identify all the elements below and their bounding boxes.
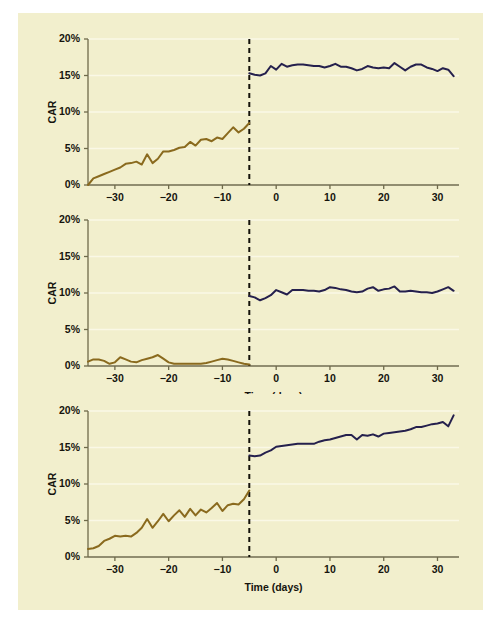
x-tick-label: −20: [160, 191, 178, 203]
axes: [84, 411, 459, 561]
chart-panel-1: 0%5%10%15%20%−30−20−100102030Time (days)…: [18, 25, 483, 207]
y-tick-label: 0%: [65, 550, 81, 562]
x-tick-label: 10: [324, 191, 336, 203]
y-tick-label: 5%: [65, 142, 81, 154]
y-axis-title: CAR: [46, 281, 58, 304]
x-tick-label: 10: [324, 563, 336, 575]
chart-svg: 0%5%10%15%20%−30−20−100102030Time (days)…: [18, 25, 483, 207]
y-tick-label: 15%: [59, 250, 81, 262]
x-tick-label: 30: [432, 563, 444, 575]
x-tick-label: −10: [214, 191, 232, 203]
x-tick-label: 20: [378, 372, 390, 384]
y-tick-label: 5%: [65, 514, 81, 526]
chart-svg: 0%5%10%15%20%−30−20−100102030Time (days)…: [18, 397, 483, 597]
y-tick-label: 5%: [65, 323, 81, 335]
data-line: [249, 63, 453, 76]
chart-panel-2: 0%5%10%15%20%−30−20−100102030Time (days)…: [18, 206, 483, 394]
y-tick-label: 10%: [59, 105, 81, 117]
x-tick-label: −10: [214, 563, 232, 575]
y-tick-label: 10%: [59, 477, 81, 489]
x-tick-label: 0: [273, 191, 279, 203]
y-tick-label: 0%: [65, 359, 81, 371]
data-line: [88, 355, 249, 364]
chart-svg: 0%5%10%15%20%−30−20−100102030Time (days)…: [18, 206, 483, 394]
x-tick-label: 20: [378, 191, 390, 203]
x-tick-label: 0: [273, 372, 279, 384]
x-tick-label: −10: [214, 372, 232, 384]
axes: [84, 39, 459, 189]
x-tick-label: −30: [106, 563, 124, 575]
gridlines: [88, 411, 459, 557]
chart-panel-3: 0%5%10%15%20%−30−20−100102030Time (days)…: [18, 397, 483, 597]
y-tick-label: 20%: [59, 404, 81, 416]
x-axis-title: Time (days): [244, 581, 302, 593]
x-tick-label: 30: [432, 191, 444, 203]
data-line: [249, 415, 453, 456]
y-tick-label: 0%: [65, 178, 81, 190]
figure-container: 0%5%10%15%20%−30−20−100102030Time (days)…: [0, 0, 499, 622]
x-tick-label: −30: [106, 191, 124, 203]
figure-canvas: 0%5%10%15%20%−30−20−100102030Time (days)…: [18, 13, 483, 610]
y-tick-label: 15%: [59, 69, 81, 81]
y-axis-title: CAR: [46, 100, 58, 123]
x-tick-label: 30: [432, 372, 444, 384]
x-tick-label: 0: [273, 563, 279, 575]
y-tick-label: 20%: [59, 213, 81, 225]
x-tick-label: −20: [160, 563, 178, 575]
y-axis-title: CAR: [46, 472, 58, 495]
data-line: [88, 123, 249, 185]
x-tick-label: −20: [160, 372, 178, 384]
x-tick-label: 10: [324, 372, 336, 384]
y-tick-label: 20%: [59, 32, 81, 44]
x-tick-label: 20: [378, 563, 390, 575]
x-tick-label: −30: [106, 372, 124, 384]
x-axis-title: Time (days): [244, 390, 302, 394]
y-tick-label: 10%: [59, 286, 81, 298]
y-tick-label: 15%: [59, 441, 81, 453]
